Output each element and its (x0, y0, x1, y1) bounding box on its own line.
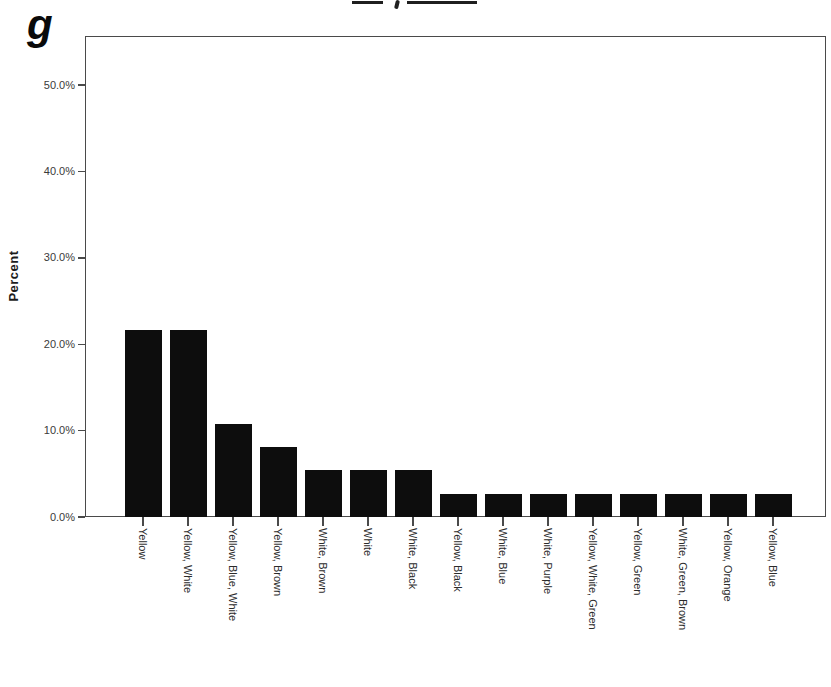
bar-yellow-black (440, 494, 477, 517)
bar-yellow-green (620, 494, 657, 517)
x-tick-label: Yellow, Blue, White (227, 528, 239, 621)
y-tick-label: 50.0% (0, 79, 75, 92)
y-tick-label: 0.0% (0, 511, 75, 524)
x-tick-label: White, Black (407, 528, 419, 589)
bar-white-blue (485, 494, 522, 517)
x-tick-mark (772, 517, 774, 526)
x-tick-label: Yellow, Black (452, 528, 464, 592)
bar-white-black (395, 470, 432, 517)
y-tick-label: 10.0% (0, 424, 75, 437)
x-tick-mark (277, 517, 279, 526)
bar-white-purple (530, 494, 567, 517)
cropped-title-fragment (407, 1, 477, 4)
y-tick-label: 40.0% (0, 165, 75, 178)
y-tick-label: 20.0% (0, 338, 75, 351)
x-tick-mark (322, 517, 324, 526)
y-tick-mark (78, 257, 85, 259)
bar-yellow-white-green (575, 494, 612, 517)
cropped-title-fragment (352, 1, 383, 4)
x-tick-mark (682, 517, 684, 526)
x-tick-mark (457, 517, 459, 526)
cropped-title-fragment (394, 0, 400, 9)
x-tick-mark (232, 517, 234, 526)
x-tick-mark (412, 517, 414, 526)
x-tick-mark (637, 517, 639, 526)
bar-yellow-blue-white (215, 424, 252, 517)
x-tick-mark (367, 517, 369, 526)
bar-white-green-brown (665, 494, 702, 517)
x-tick-label: White, Purple (542, 528, 554, 594)
y-tick-label: 30.0% (0, 251, 75, 264)
x-tick-mark (142, 517, 144, 526)
bar-yellow-white (170, 330, 207, 517)
x-tick-label: Yellow, White, Green (587, 528, 599, 630)
x-tick-mark (187, 517, 189, 526)
x-tick-label: Yellow, Orange (722, 528, 734, 602)
x-tick-label: White, Blue (497, 528, 509, 584)
x-tick-label: Yellow (137, 528, 149, 559)
y-tick-mark (78, 84, 85, 86)
y-tick-mark (78, 344, 85, 346)
x-tick-label: Yellow, Green (632, 528, 644, 595)
x-tick-mark (547, 517, 549, 526)
x-tick-label: Yellow, Blue (767, 528, 779, 587)
bar-white-brown (305, 470, 342, 517)
x-tick-mark (592, 517, 594, 526)
y-tick-mark (78, 171, 85, 173)
y-tick-mark (78, 516, 85, 518)
x-tick-label: White, Green, Brown (677, 528, 689, 630)
y-tick-mark (78, 430, 85, 432)
bar-yellow-orange (710, 494, 747, 517)
x-tick-mark (502, 517, 504, 526)
x-tick-label: White, Brown (317, 528, 329, 593)
x-tick-label: Yellow, Brown (272, 528, 284, 596)
bar-yellow-blue (755, 494, 792, 517)
bar-yellow-brown (260, 447, 297, 517)
x-tick-mark (727, 517, 729, 526)
chart-canvas: g Percent 0.0%10.0%20.0%30.0%40.0%50.0% … (0, 0, 831, 687)
bar-yellow (125, 330, 162, 517)
x-tick-label: White (362, 528, 374, 556)
bar-white (350, 470, 387, 517)
figure-panel-label: g (27, 4, 53, 46)
x-tick-label: Yellow, White (182, 528, 194, 593)
